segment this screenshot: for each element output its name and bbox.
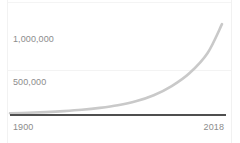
data-line-series <box>10 24 222 113</box>
x-axis-tick-label-start: 1900 <box>13 122 33 133</box>
x-axis-tick-label-end: 2018 <box>204 122 224 133</box>
line-chart: 1,000,000 500,000 1900 2018 <box>0 0 240 143</box>
x-axis-baseline <box>10 114 226 116</box>
